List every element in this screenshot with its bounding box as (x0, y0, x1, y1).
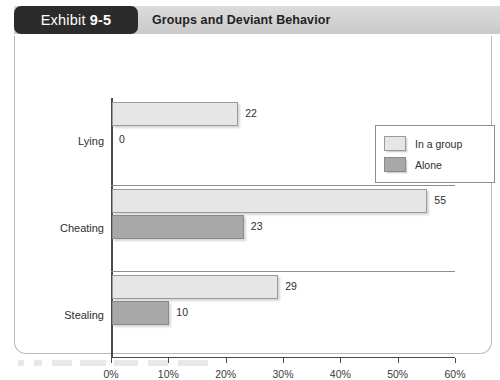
chart-frame: 0%10%20%30%40%50%60% Lying220Cheating552… (14, 36, 492, 354)
x-tick (455, 358, 456, 363)
bar-cheating-in-a-group (112, 189, 427, 213)
x-tick-label: 40% (330, 368, 351, 380)
exhibit-tab: Exhibit9-5 (14, 6, 138, 34)
exhibit-title: Groups and Deviant Behavior (152, 6, 330, 34)
footer-source-smudge (18, 360, 208, 366)
bar-group-cheating: Cheating5523 (111, 185, 455, 272)
exhibit-header: Exhibit9-5 Groups and Deviant Behavior (0, 6, 500, 36)
legend-label-in-a-group: In a group (415, 138, 462, 150)
x-tick-label: 10% (158, 368, 179, 380)
category-label: Lying (78, 135, 104, 147)
x-tick-label: 30% (272, 368, 293, 380)
x-tick-label: 0% (103, 368, 118, 380)
category-label: Stealing (64, 309, 104, 321)
x-tick (226, 358, 227, 363)
bar-cheating-alone (112, 215, 244, 239)
legend-swatch-alone (384, 157, 406, 172)
legend-item-alone: Alone (384, 154, 486, 175)
plot-area: 0%10%20%30%40%50%60% Lying220Cheating552… (111, 98, 455, 358)
x-tick-label: 60% (444, 368, 465, 380)
exhibit-number: 9-5 (90, 12, 112, 28)
legend-item-in-a-group: In a group (384, 133, 486, 154)
bar-value-label: 22 (245, 107, 257, 119)
legend-swatch-in-a-group (384, 136, 406, 151)
bar-lying-in-a-group (112, 102, 238, 126)
x-tick-label: 50% (387, 368, 408, 380)
exhibit-tab-text: Exhibit9-5 (41, 12, 111, 28)
bar-value-label: 23 (251, 220, 263, 232)
bar-group-stealing: Stealing2910 (111, 271, 455, 358)
x-tick (340, 358, 341, 363)
bar-value-label: 55 (434, 194, 446, 206)
bar-stealing-alone (112, 301, 169, 325)
bar-value-label: 29 (285, 280, 297, 292)
bar-value-label: 10 (176, 306, 188, 318)
x-tick (398, 358, 399, 363)
x-tick-label: 20% (215, 368, 236, 380)
legend-label-alone: Alone (415, 159, 442, 171)
bar-value-label: 0 (119, 133, 125, 145)
category-label: Cheating (60, 222, 104, 234)
exhibit-word: Exhibit (41, 12, 86, 28)
x-tick (283, 358, 284, 363)
bar-stealing-in-a-group (112, 275, 278, 299)
chart-legend: In a group Alone (375, 125, 495, 183)
